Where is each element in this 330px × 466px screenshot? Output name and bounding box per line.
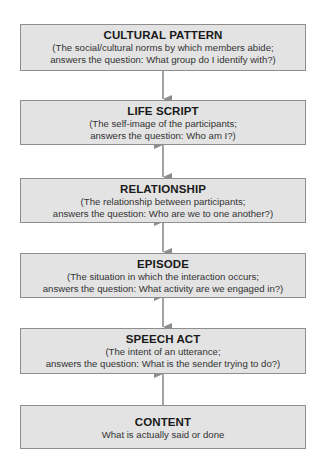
level-box-life-script: LIFE SCRIPT (The self-image of the parti… [20,100,306,145]
level-title: RELATIONSHIP [21,182,305,196]
level-description-line: (The situation in which the interaction … [21,271,305,283]
level-title: SPEECH ACT [21,332,305,346]
level-description-line: (The relationship between participants; [21,196,305,208]
level-box-content: CONTENT What is actually said or done [20,405,306,449]
level-box-cultural-pattern: CULTURAL PATTERN (The social/cultural no… [20,24,306,71]
level-description-line: answers the question: What is the sender… [21,358,305,370]
level-description-line: (The social/cultural norms by which memb… [21,42,305,54]
level-box-episode: EPISODE (The situation in which the inte… [20,253,306,298]
level-description-line: answers the question: Who am I?) [21,130,305,142]
level-description-line: answers the question: What group do I id… [21,54,305,66]
level-description-line: answers the question: What activity are … [21,283,305,295]
level-title: LIFE SCRIPT [21,104,305,118]
level-title: EPISODE [21,257,305,271]
level-description-line: What is actually said or done [21,429,305,441]
level-description-line: answers the question: Who are we to one … [21,208,305,220]
level-title: CULTURAL PATTERN [21,28,305,42]
level-description-line: (The self-image of the participants; [21,118,305,130]
level-description-line: (The intent of an utterance; [21,346,305,358]
level-box-speech-act: SPEECH ACT (The intent of an utterance; … [20,328,306,374]
level-title: CONTENT [21,415,305,429]
level-box-relationship: RELATIONSHIP (The relationship between p… [20,178,306,223]
